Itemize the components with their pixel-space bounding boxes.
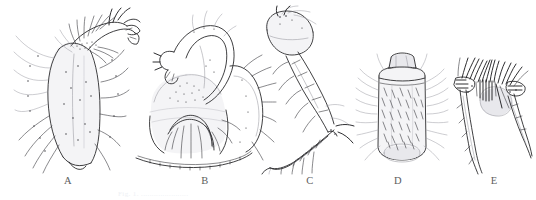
panel-d-setose-segment (356, 52, 448, 174)
panel-label-d: D (388, 175, 408, 186)
panel-label-c: C (300, 175, 320, 186)
panel-e-setal-brush (452, 56, 532, 174)
figure-plate: Fig. 1. ...................... A B C D E (0, 0, 536, 200)
panel-a-palp-chela (14, 6, 140, 174)
figure-caption-ghost: Fig. 1. ...................... (118, 190, 418, 198)
panel-label-e: E (484, 175, 504, 186)
panel-c-leg-segments (258, 6, 354, 174)
panel-label-b: B (195, 175, 215, 186)
panel-b-genital-plate (134, 6, 276, 174)
panel-label-a: A (58, 175, 78, 186)
